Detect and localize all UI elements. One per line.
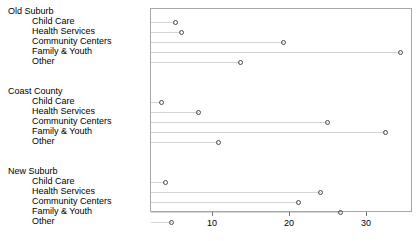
category-label: Child Care bbox=[32, 176, 75, 186]
connector-line bbox=[151, 112, 199, 113]
category-label: Health Services bbox=[32, 106, 95, 116]
plot-panel bbox=[150, 8, 412, 212]
connector-line bbox=[151, 52, 401, 53]
x-tick-label: 20 bbox=[284, 218, 294, 228]
group-title: New Suburb bbox=[8, 166, 58, 176]
x-axis: 102030 bbox=[150, 212, 412, 241]
connector-line bbox=[151, 132, 385, 133]
category-label: Child Care bbox=[32, 16, 75, 26]
category-label: Family & Youth bbox=[32, 206, 92, 216]
connector-line bbox=[151, 62, 240, 63]
category-label-column: Old SuburbChild CareHealth ServicesCommu… bbox=[0, 0, 150, 241]
category-label: Child Care bbox=[32, 96, 75, 106]
connector-line bbox=[151, 32, 181, 33]
category-label: Community Centers bbox=[32, 36, 112, 46]
category-label: Health Services bbox=[32, 186, 95, 196]
category-label: Family & Youth bbox=[32, 46, 92, 56]
data-point[interactable] bbox=[281, 40, 286, 45]
connector-line bbox=[151, 202, 298, 203]
data-point[interactable] bbox=[173, 20, 178, 25]
data-point[interactable] bbox=[296, 200, 301, 205]
connector-line bbox=[151, 22, 175, 23]
x-tick-mark bbox=[289, 212, 290, 216]
data-point[interactable] bbox=[325, 120, 330, 125]
x-tick-label: 10 bbox=[207, 218, 217, 228]
category-label: Health Services bbox=[32, 26, 95, 36]
data-point[interactable] bbox=[179, 30, 184, 35]
group-title: Old Suburb bbox=[8, 6, 54, 16]
group-title: Coast County bbox=[8, 86, 63, 96]
connector-line bbox=[151, 122, 328, 123]
category-label: Other bbox=[32, 56, 55, 66]
category-label: Community Centers bbox=[32, 116, 112, 126]
data-point[interactable] bbox=[159, 100, 164, 105]
data-point[interactable] bbox=[383, 130, 388, 135]
connector-line bbox=[151, 42, 284, 43]
dotplot-figure: Old SuburbChild CareHealth ServicesCommu… bbox=[0, 0, 420, 241]
plot-area bbox=[151, 9, 411, 211]
data-point[interactable] bbox=[318, 190, 323, 195]
category-label: Other bbox=[32, 136, 55, 146]
category-label: Community Centers bbox=[32, 196, 112, 206]
data-point[interactable] bbox=[163, 180, 168, 185]
data-point[interactable] bbox=[238, 60, 243, 65]
data-point[interactable] bbox=[398, 50, 403, 55]
connector-line bbox=[151, 142, 218, 143]
connector-line bbox=[151, 192, 321, 193]
x-tick-label: 30 bbox=[361, 218, 371, 228]
category-label: Family & Youth bbox=[32, 126, 92, 136]
category-label: Other bbox=[32, 216, 55, 226]
data-point[interactable] bbox=[216, 140, 221, 145]
x-tick-mark bbox=[212, 212, 213, 216]
x-tick-mark bbox=[366, 212, 367, 216]
data-point[interactable] bbox=[196, 110, 201, 115]
